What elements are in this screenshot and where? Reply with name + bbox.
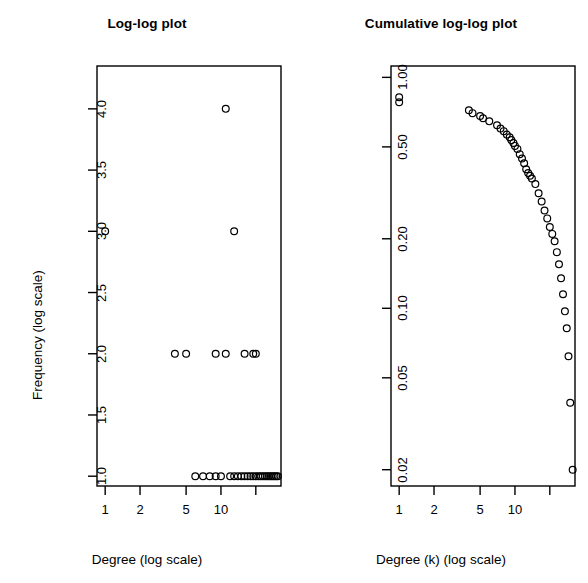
- data-point: [222, 350, 229, 357]
- y-tick-label: 3.0: [94, 231, 109, 249]
- data-point: [551, 238, 558, 245]
- data-point: [563, 325, 570, 332]
- y-tick-label: 1.00: [395, 77, 410, 102]
- data-point: [241, 350, 248, 357]
- y-tick-label: 0.50: [395, 147, 410, 172]
- y-tick-label: 1.0: [94, 476, 109, 494]
- y-tick-label: 2.5: [94, 293, 109, 311]
- data-point: [222, 105, 229, 112]
- x-tick-label: 1: [102, 502, 109, 517]
- x-tick-label: 2: [136, 502, 143, 517]
- data-point: [192, 473, 199, 480]
- data-point: [544, 215, 551, 222]
- scatter-plot-right: [294, 0, 588, 583]
- x-tick-label: 2: [430, 502, 437, 517]
- x-tick-label: 10: [508, 502, 522, 517]
- data-point: [560, 291, 567, 298]
- x-axis-title-right: Degree (k) (log scale): [294, 552, 588, 567]
- y-tick-label: 0.05: [395, 378, 410, 403]
- data-point: [171, 350, 178, 357]
- data-point: [567, 399, 574, 406]
- data-point: [562, 308, 569, 315]
- y-tick-label: 0.20: [395, 239, 410, 264]
- panel-cumulative-log-log-plot: Cumulative log-log plot Fraction with mi…: [294, 0, 588, 583]
- y-tick-label: 3.5: [94, 170, 109, 188]
- x-axis-title-left: Degree (log scale): [0, 552, 294, 567]
- data-point: [565, 353, 572, 360]
- y-tick-label: 2.0: [94, 354, 109, 372]
- y-tick-label: 0.02: [395, 470, 410, 495]
- data-point: [200, 473, 207, 480]
- data-point: [212, 350, 219, 357]
- y-axis-title-left: Frequency (log scale): [30, 270, 45, 400]
- data-point: [532, 181, 539, 188]
- data-point: [549, 230, 556, 237]
- data-point: [231, 228, 238, 235]
- data-point: [558, 275, 565, 282]
- data-point: [183, 350, 190, 357]
- panel-log-log-plot: Log-log plot Frequency (log scale) Degre…: [0, 0, 294, 583]
- x-tick-label: 1: [396, 502, 403, 517]
- x-tick-label: 5: [476, 502, 483, 517]
- data-point: [546, 224, 553, 231]
- x-tick-label: 5: [182, 502, 189, 517]
- data-point: [541, 207, 548, 214]
- x-tick-label: 10: [214, 502, 228, 517]
- data-point: [556, 261, 563, 268]
- data-point: [553, 249, 560, 256]
- data-point: [535, 190, 542, 197]
- y-tick-label: 4.0: [94, 109, 109, 127]
- y-tick-label: 1.5: [94, 415, 109, 433]
- data-point: [538, 198, 545, 205]
- y-tick-label: 0.10: [395, 308, 410, 333]
- data-point: [486, 118, 493, 125]
